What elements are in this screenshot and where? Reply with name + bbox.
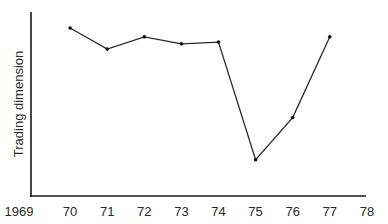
data-point-marker	[105, 47, 109, 51]
x-tick-label: 77	[323, 204, 337, 219]
y-axis-title: Trading dimension	[11, 51, 26, 157]
data-point-marker	[180, 42, 184, 46]
data-point-marker	[217, 40, 221, 44]
x-tick-label: 73	[174, 204, 188, 219]
data-point-marker	[291, 116, 295, 120]
x-tick-labels: 1969707172737475767778	[5, 204, 375, 219]
series-line	[70, 28, 330, 160]
x-tick-label: 70	[63, 204, 77, 219]
x-tick-label: 78	[360, 204, 374, 219]
line-chart: 1969707172737475767778 Trading dimension	[0, 0, 388, 224]
x-tick-label: 76	[285, 204, 299, 219]
data-point-marker	[143, 35, 147, 39]
x-tick-label: 71	[100, 204, 114, 219]
data-series	[68, 26, 331, 161]
data-point-marker	[254, 158, 258, 162]
x-tick-label: 75	[248, 204, 262, 219]
data-point-marker	[68, 26, 72, 30]
x-tick-label: 72	[137, 204, 151, 219]
x-tick-label: 1969	[5, 204, 34, 219]
x-tick-label: 74	[211, 204, 225, 219]
data-point-marker	[328, 35, 332, 39]
